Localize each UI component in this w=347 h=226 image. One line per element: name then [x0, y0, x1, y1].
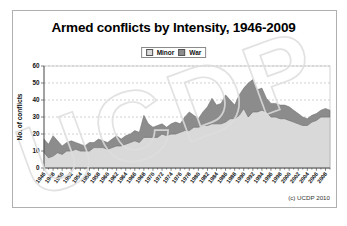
- chart-title: Armed conflicts by Intensity, 1946-2009: [12, 20, 335, 35]
- minor-swatch-icon: [146, 49, 153, 56]
- y-axis-title: No. of conflicts: [16, 66, 26, 168]
- figure: 0102030405060194619481950195219541956195…: [0, 0, 347, 226]
- copyright-attribution: (c) UCDP 2010: [230, 194, 330, 201]
- war-swatch-icon: [178, 49, 185, 56]
- ucdp-watermark-text: UCDP: [3, 6, 338, 219]
- legend: Minor War: [141, 47, 207, 58]
- legend-label-minor: Minor: [157, 49, 175, 56]
- legend-label-war: War: [189, 49, 201, 56]
